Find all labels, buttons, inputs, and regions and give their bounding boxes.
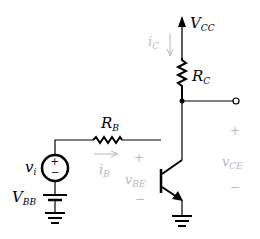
vcc-arrow-icon: [178, 16, 186, 58]
ac-voltage-source-icon: + −: [42, 155, 68, 181]
npn-emitter-arrow-icon: [162, 187, 183, 201]
battery-icon: [43, 195, 67, 200]
vce-label: vCE: [222, 154, 243, 171]
ground-icon: [45, 213, 65, 223]
rc-resistor-icon: [178, 58, 186, 101]
vbe-plus: +: [134, 151, 144, 165]
ib-label: iB: [99, 162, 110, 179]
svg-text:−: −: [51, 167, 59, 178]
vce-plus: +: [230, 124, 240, 138]
ib-current-arrow-icon: [94, 151, 118, 157]
vbe-label: vBE: [125, 172, 146, 189]
vi-label: vi: [25, 158, 36, 177]
svg-text:+: +: [51, 156, 59, 167]
rb-label: RB: [100, 114, 119, 133]
rb-resistor-icon: [93, 137, 122, 143]
vbe-minus: −: [135, 192, 145, 206]
vce-minus: −: [230, 180, 240, 194]
ic-current-arrow-icon: [167, 33, 173, 56]
circuit-diagram: VCC iC RC RB iB + vBE − + vCE −: [0, 0, 260, 239]
ic-label: iC: [148, 34, 159, 51]
vbb-label: VBB: [12, 188, 36, 207]
vcc-label: VCC: [190, 14, 215, 33]
output-terminal: [233, 98, 239, 104]
rc-label: RC: [191, 67, 210, 86]
ground-icon: [172, 216, 192, 226]
